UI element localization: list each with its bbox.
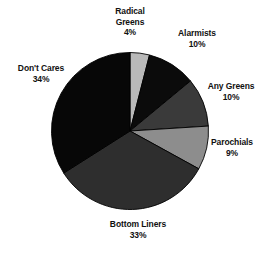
pie-label-radical-greens-value: 4% <box>94 27 166 38</box>
pie-label-alarmists: Alarmists 10% <box>166 28 228 49</box>
pie-label-any-greens-name: Any Greens <box>192 81 270 92</box>
pie-label-parochials-name: Parochials <box>198 137 266 148</box>
pie-label-parochials-value: 9% <box>198 148 266 159</box>
pie-label-radical-greens-line2: Greens <box>106 17 154 28</box>
pie-label-dont-cares: Don't Cares 34% <box>4 63 78 84</box>
pie-label-alarmists-value: 10% <box>166 39 228 50</box>
pie-label-bottom-liners-name: Bottom Liners <box>84 219 192 230</box>
pie-chart: Radical Greens 4% Alarmists 10% Any Gree… <box>0 0 278 253</box>
pie-label-dont-cares-value: 34% <box>4 74 78 85</box>
pie-chart-canvas <box>0 0 278 253</box>
pie-label-radical-greens-line1: Radical <box>106 6 154 17</box>
pie-label-any-greens: Any Greens 10% <box>192 81 270 102</box>
pie-label-any-greens-value: 10% <box>192 92 270 103</box>
pie-label-bottom-liners-value: 33% <box>84 230 192 241</box>
pie-label-dont-cares-name: Don't Cares <box>4 63 78 74</box>
pie-label-alarmists-name: Alarmists <box>166 28 228 39</box>
pie-label-parochials: Parochials 9% <box>198 137 266 158</box>
pie-label-bottom-liners: Bottom Liners 33% <box>84 219 192 240</box>
pie-label-radical-greens: Radical Greens 4% <box>94 6 166 38</box>
